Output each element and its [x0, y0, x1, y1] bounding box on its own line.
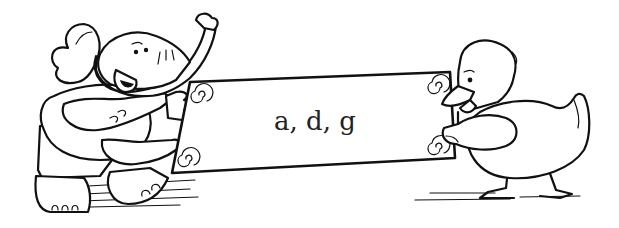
duck [442, 41, 589, 198]
illustration: a, d, g [0, 0, 619, 228]
sign: a, d, g [172, 72, 455, 173]
sign-text: a, d, g [274, 106, 356, 136]
